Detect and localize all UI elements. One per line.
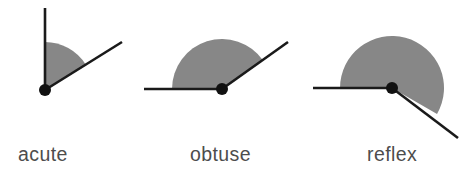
acute-label: acute [18, 143, 68, 165]
acute-angle-sector [45, 42, 86, 90]
angle-types-figure: acute obtuse reflex [0, 0, 467, 173]
acute-vertex-dot [39, 84, 51, 96]
reflex-angle-sector [340, 36, 444, 114]
reflex-vertex-dot [386, 82, 398, 94]
reflex-label: reflex [367, 143, 417, 165]
obtuse-vertex-dot [216, 83, 228, 95]
obtuse-label: obtuse [190, 143, 251, 165]
angle-diagrams-canvas: acute obtuse reflex [0, 0, 467, 173]
reflex-angle-diagram [313, 36, 458, 138]
obtuse-angle-sector [172, 39, 263, 89]
acute-angle-diagram [39, 8, 122, 96]
obtuse-angle-diagram [144, 39, 288, 95]
